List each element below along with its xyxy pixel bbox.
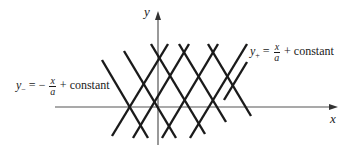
x-axis-arrow-icon	[329, 104, 338, 110]
y-minus-equation: y− = − xa + constant	[16, 76, 110, 97]
y-minus-rest: + constant	[60, 78, 110, 92]
y-minus-denominator: a	[49, 87, 55, 97]
y-minus-line	[179, 44, 226, 122]
y-axis-label: y	[144, 4, 150, 20]
y-axis-arrow-icon	[155, 11, 161, 20]
y-minus-line	[124, 51, 176, 138]
y-plus-line	[162, 44, 218, 138]
y-minus-line	[208, 44, 251, 116]
y-plus-line	[133, 44, 189, 138]
y-minus-sign: −	[39, 78, 46, 92]
y-plus-fraction: xa	[274, 42, 280, 63]
x-axis-label: x	[330, 111, 336, 127]
y-plus-equation: y+ = xa + constant	[250, 42, 334, 63]
characteristic-lines	[102, 44, 251, 138]
y-plus-subscript: +	[255, 51, 260, 60]
y-plus-line	[190, 44, 247, 138]
y-plus-rest: + constant	[284, 44, 334, 58]
y-minus-subscript: −	[21, 85, 26, 94]
y-plus-line	[224, 62, 247, 100]
y-plus-equals: =	[263, 44, 270, 58]
y-minus-equals: =	[29, 78, 36, 92]
y-plus-denominator: a	[274, 53, 280, 63]
y-minus-fraction: xa	[49, 76, 55, 97]
